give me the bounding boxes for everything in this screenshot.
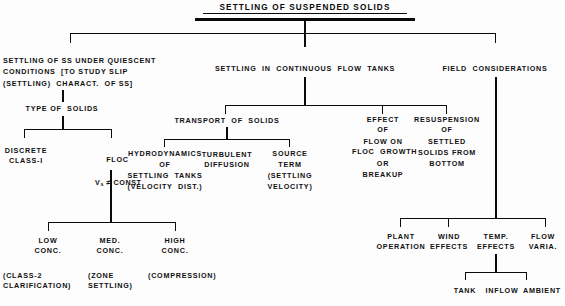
- connector-low-conc-drop: [48, 222, 49, 231]
- connector-hydrodynamics-drop: [164, 139, 165, 147]
- node-type-of-solids: TYPE OF SOLIDS: [22, 104, 102, 115]
- node-field-considerations: FIELD CONSIDERATIONS: [440, 64, 550, 75]
- node-med-conc: MED. CONC.: [88, 235, 132, 257]
- connector-floc-stem: [110, 170, 112, 223]
- node-wind-effects: WIND EFFECTS: [425, 231, 473, 253]
- node-resuspension: RESUSPENSION OF SETTLED SOLIDS FROM BOTT…: [412, 114, 482, 169]
- connector-field-children-bar: [400, 218, 545, 219]
- connector-transport-stem: [226, 127, 228, 139]
- connector-continuous-children-bar: [225, 105, 447, 106]
- connector-wind-effects-drop: [448, 218, 449, 227]
- node-temp-effects: TEMP. EFFECTS: [473, 231, 519, 253]
- note-med-conc: (ZONE SETTLING): [88, 270, 148, 292]
- connector-transport-children-bar: [164, 139, 290, 140]
- note-high-conc: (COMPRESSION): [148, 271, 218, 282]
- connector-temp-children-bar: [465, 272, 527, 273]
- connector-continuous-flow-stem: [304, 77, 306, 105]
- node-tank: TANK: [446, 286, 484, 297]
- node-quiescent-settling: SETTLING OF SS UNDER QUIESCENT CONDITION…: [3, 56, 153, 89]
- connector-level1-bar: [70, 33, 496, 34]
- node-transport-of-solids: TRANSPORT OF SOLIDS: [168, 116, 286, 127]
- connector-type-of-solids-stem: [62, 116, 64, 129]
- node-discrete-class-i: DISCRETE CLASS-I: [0, 145, 52, 167]
- node-plant-operation: PLANT OPERATION: [375, 231, 427, 253]
- connector-solids-bar: [24, 129, 112, 130]
- connector-ambient-drop: [526, 272, 527, 280]
- diagram-canvas: SETTLING OF SUSPENDED SOLIDS SETTLING OF…: [0, 0, 565, 306]
- connector-level1-mid-drop: [304, 33, 306, 47]
- node-ambient: AMBIENT: [519, 286, 565, 297]
- connector-concentration-bar: [48, 222, 176, 223]
- node-hydrodynamics: HYDRODYNAMICS OF SETTLING TANKS (VELOCIT…: [126, 149, 204, 193]
- node-source-term: SOURCE TERM (SETTLING VELOCITY): [259, 149, 321, 193]
- connector-plant-operation-drop: [400, 218, 401, 227]
- connector-transport-drop: [225, 105, 226, 114]
- connector-flow-varia-drop: [545, 218, 546, 227]
- connector-high-conc-drop: [175, 222, 176, 231]
- node-high-conc: HIGH CONC.: [153, 235, 197, 257]
- node-turbulent-diffusion: TURBULENT DIFFUSION: [196, 149, 258, 171]
- node-low-conc: LOW CONC.: [26, 235, 70, 257]
- diagram-title: SETTLING OF SUSPENDED SOLIDS: [180, 3, 430, 12]
- connector-quiescent-stem: [62, 90, 64, 102]
- connector-resuspension-drop: [446, 105, 447, 114]
- title-underline-thin: [203, 13, 407, 14]
- connector-temp-effects-stem: [495, 254, 497, 272]
- connector-floc-drop: [111, 129, 112, 138]
- connector-level1-left-drop: [70, 33, 71, 43]
- connector-discrete-drop: [24, 129, 25, 138]
- connector-field-stem: [495, 77, 497, 218]
- connector-tank-drop: [465, 272, 466, 280]
- node-inflow: INFLOW: [482, 286, 522, 297]
- node-continuous-flow-tanks: SETTLING IN CONTINUOUS FLOW TANKS: [215, 64, 395, 75]
- connector-effect-drop: [382, 105, 383, 114]
- node-effect-of-flow: EFFECT OF FLOW ON FLOC GROWTH OR BREAKUP: [352, 114, 414, 180]
- connector-source-term-drop: [289, 139, 290, 147]
- node-flow-varia: FLOW VARIA.: [522, 231, 564, 253]
- connector-level1-right-drop: [495, 33, 496, 43]
- note-low-conc: (CLASS-2 CLARIFICATION): [3, 270, 73, 292]
